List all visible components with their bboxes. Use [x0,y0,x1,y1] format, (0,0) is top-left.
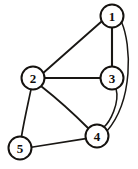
node-label-4: 4 [94,129,101,144]
graph-edge-2-4 [42,87,89,129]
node-label-2: 2 [30,71,37,86]
graph-node-4: 4 [86,125,109,148]
node-label-5: 5 [17,141,24,156]
graph-edge-2-5 [22,89,32,136]
graph-diagram: 12345 [0,0,138,169]
graph-canvas: 12345 [0,0,138,169]
graph-edge-1-2 [43,21,102,73]
graph-node-2: 2 [22,67,45,90]
node-label-3: 3 [109,71,116,86]
nodes-group: 12345 [9,5,124,160]
node-label-1: 1 [109,9,116,24]
graph-edge-3-4 [104,89,117,128]
graph-edge-4-5 [31,139,86,148]
graph-node-3: 3 [101,67,124,90]
graph-node-5: 5 [9,137,32,160]
graph-node-1: 1 [101,5,124,28]
